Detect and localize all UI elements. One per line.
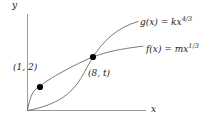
function-label-g: g(x) = kx4/3 [140, 16, 192, 27]
curve-g [28, 22, 139, 111]
point-marker-8-t [90, 54, 96, 60]
curve-f [28, 46, 144, 110]
y-axis-label: y [12, 1, 17, 10]
point-marker-1-2 [37, 84, 43, 90]
function-label-f: f(x) = mx1/3 [146, 43, 199, 54]
point-label-1-2: (1, 2) [13, 63, 37, 72]
function-label-g-text: g(x) = kx [140, 17, 182, 27]
function-label-f-exponent: 1/3 [188, 43, 198, 50]
x-axis-label: x [151, 105, 156, 114]
function-label-g-exponent: 4/3 [182, 16, 192, 23]
function-label-f-text: f(x) = mx [146, 44, 188, 54]
math-figure: y x g(x) = kx4/3 f(x) = mx1/3 (1, 2) (8,… [0, 0, 214, 129]
point-label-8-t: (8, t) [88, 69, 110, 78]
